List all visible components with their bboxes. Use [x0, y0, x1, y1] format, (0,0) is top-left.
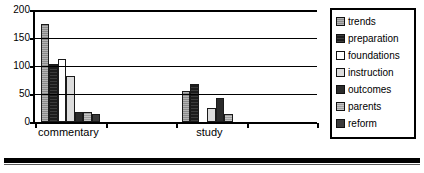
- legend-swatch-icon: [336, 51, 345, 60]
- gridline: [35, 10, 317, 12]
- legend-swatch-icon: [336, 68, 345, 77]
- legend-swatch-icon: [336, 34, 345, 43]
- bottom-divider-rule: [4, 158, 420, 163]
- legend-item-label: foundations: [348, 50, 400, 61]
- legend-swatch-icon: [336, 102, 345, 111]
- bar-trends-study: [182, 91, 191, 122]
- legend-item-label: reform: [348, 118, 377, 129]
- plot-area: [33, 10, 317, 124]
- legend-item-parents[interactable]: parents: [336, 98, 412, 115]
- legend-item-preparation[interactable]: preparation: [336, 30, 412, 47]
- legend-item-outcomes[interactable]: outcomes: [336, 81, 412, 98]
- x-axis-tick: [317, 123, 319, 128]
- legend-swatch-icon: [336, 17, 345, 26]
- y-tick-label: 100: [13, 61, 30, 71]
- legend-item-reform[interactable]: reform: [336, 115, 412, 132]
- bar-foundations-commentary: [58, 59, 67, 122]
- y-tick-label: 200: [13, 5, 30, 15]
- y-axis-tick: [30, 10, 35, 12]
- x-category-label-commentary: commentary: [38, 126, 99, 139]
- bar-instruction-commentary: [66, 76, 75, 122]
- chart-legend: trendspreparationfoundationsinstructiono…: [330, 8, 416, 139]
- gridline: [35, 66, 317, 67]
- bar-outcomes-study: [216, 98, 225, 122]
- legend-item-label: parents: [348, 101, 381, 112]
- bar-parents-commentary: [83, 112, 92, 122]
- gridline: [35, 94, 317, 95]
- legend-item-label: preparation: [348, 33, 399, 44]
- y-tick-label: 150: [13, 33, 30, 43]
- x-category-label-study: study: [196, 126, 222, 139]
- gridline: [35, 38, 317, 39]
- bar-parents-study: [224, 114, 233, 122]
- legend-item-foundations[interactable]: foundations: [336, 47, 412, 64]
- chart-figure: 050100150200 commentarystudy trendsprepa…: [0, 0, 424, 173]
- bar-reform-commentary: [92, 114, 101, 122]
- legend-swatch-icon: [336, 119, 345, 128]
- bar-instruction-study: [207, 108, 216, 122]
- bar-outcomes-commentary: [75, 112, 84, 122]
- legend-item-instruction[interactable]: instruction: [336, 64, 412, 81]
- y-axis-tick: [30, 66, 35, 68]
- legend-swatch-icon: [336, 85, 345, 94]
- x-axis-labels: commentarystudy: [33, 126, 315, 142]
- y-tick-label: 50: [19, 89, 30, 99]
- legend-item-label: outcomes: [348, 84, 391, 95]
- legend-item-trends[interactable]: trends: [336, 13, 412, 30]
- y-axis: 050100150200: [0, 10, 30, 122]
- y-axis-tick: [30, 38, 35, 40]
- bottom-divider-rule-shadow: [4, 164, 420, 165]
- legend-item-label: instruction: [348, 67, 394, 78]
- legend-item-label: trends: [348, 16, 376, 27]
- chart-plot-region: 050100150200 commentarystudy: [0, 0, 330, 150]
- y-axis-tick: [30, 94, 35, 96]
- bar-preparation-study: [190, 84, 199, 122]
